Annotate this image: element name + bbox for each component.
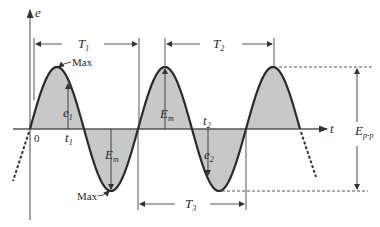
y-axis-label: e [35,5,41,20]
waveform-diagram: e t 0 T1 T2 T3 Max Max e1 t1 t2 e2 Em Em… [0,0,380,227]
max-top-leader [59,62,71,67]
max-bottom-leader [98,191,109,196]
dashed-continuation-left [13,132,29,181]
x-axis-label: t [330,121,334,136]
epp-label: Ep-p [354,123,374,140]
dashed-continuation-right [301,132,316,177]
max-bottom-label: Max [77,190,98,202]
waveform-svg: e t 0 T1 T2 T3 Max Max e1 t1 t2 e2 Em Em… [0,0,380,227]
t2-label: t2 [203,113,211,130]
origin-label: 0 [34,132,40,144]
t1-period-label: T1 [78,36,89,53]
t2-period-label: T2 [213,36,224,53]
max-top-label: Max [72,56,93,68]
t3-period-label: T3 [185,196,196,213]
t1-label: t1 [65,130,73,147]
